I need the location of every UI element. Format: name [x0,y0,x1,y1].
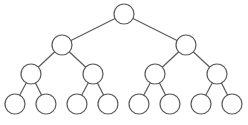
tree-node [21,64,41,84]
tree-root-node [114,4,134,24]
tree-node [83,64,103,84]
tree-leaf-node [36,94,56,114]
tree-leaf-node [5,94,25,114]
tree-node [145,64,165,84]
tree-leaf-node [98,94,118,114]
tree-node [207,64,227,84]
tree-leaf-node [129,94,149,114]
tree-leaf-node [67,94,87,114]
tree-nodes [5,4,242,114]
tree-node [52,35,72,55]
tree-leaf-node [222,94,242,114]
tree-leaf-node [160,94,180,114]
tree-node [176,35,196,55]
tree-edges [15,14,232,104]
tree-leaf-node [191,94,211,114]
binary-tree-diagram [0,0,248,125]
